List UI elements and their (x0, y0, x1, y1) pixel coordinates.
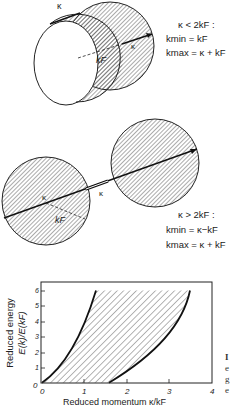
x-tick-label-0: 0 (40, 386, 44, 398)
shaded-region (42, 291, 190, 383)
condition-top: κ < 2kF : (178, 19, 215, 31)
label-kappa-top: κ (57, 0, 62, 12)
fermi-sphere-left (2, 157, 90, 245)
y-tick-label-3: 3 (35, 331, 39, 343)
y-tick-label-6: 6 (35, 285, 39, 297)
x-tick-label-4: 4 (210, 386, 214, 398)
energy-momentum-chart (41, 282, 212, 383)
y-tick-label-4: 4 (35, 316, 39, 328)
fermi-spheres-overlap (34, 2, 154, 105)
condition-middle: κ > 2kF : (178, 209, 215, 221)
caption-line-3: g (225, 374, 230, 385)
y-ticks (41, 291, 45, 368)
x-tick-label-3: 3 (167, 386, 171, 398)
y-axis-label-line1: Reduced energy (4, 293, 16, 373)
kmin-middle: kmin = κ−kF (166, 224, 218, 236)
caption-line-4: e (225, 385, 229, 396)
y-tick-label-0: 0 (33, 380, 37, 392)
kmin-top: kmin = kF (166, 33, 207, 45)
caption-line-1: I (225, 352, 229, 363)
kappa-arrow-double-inner (86, 181, 108, 189)
label-kF-top: kF (96, 54, 106, 66)
figure-canvas (0, 0, 237, 407)
y-axis-label-line2: E(k)/E(kF) (16, 293, 28, 373)
label-kappa-center: κ (42, 192, 46, 204)
label-kappa-right: κ (131, 41, 135, 53)
y-tick-label-5: 5 (35, 300, 39, 312)
fermi-sphere-right (111, 119, 199, 207)
fermi-sphere-cutout (34, 21, 98, 105)
label-kF-middle: kF (55, 214, 65, 226)
y-tick-label-1: 1 (35, 362, 39, 374)
x-axis-label: Reduced momentum κ/kF (63, 396, 166, 407)
kmax-middle: kmax = κ + kF (166, 239, 226, 251)
label-kappa-arrow: κ (99, 188, 103, 200)
y-tick-label-2: 2 (35, 347, 39, 359)
kmax-top: kmax = κ + kF (166, 47, 226, 59)
caption-line-2: e (225, 363, 229, 374)
